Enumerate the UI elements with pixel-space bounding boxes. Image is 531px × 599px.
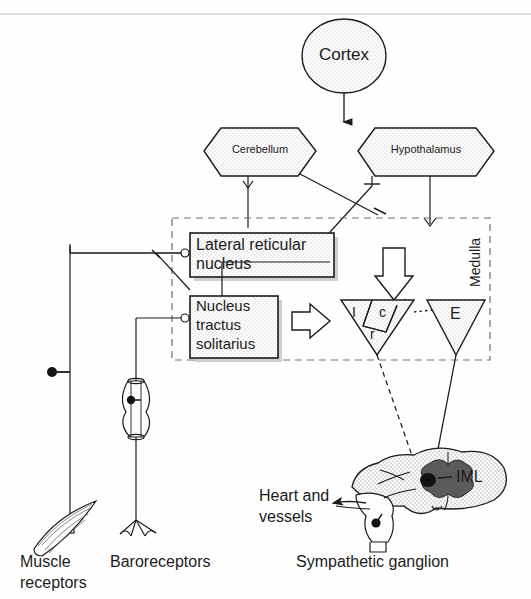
- nucleus-tractus-solitarius-label-line1: Nucleus: [196, 298, 250, 315]
- inspiratory-subregion-I-label: I: [352, 305, 356, 321]
- cerebellum-to-brainstem-line: [300, 174, 378, 215]
- heart-vessels-arrow: [334, 502, 366, 504]
- crossing-diagonal-terminal: [152, 250, 160, 258]
- heart-and-vessels-label-line2: vessels: [259, 508, 312, 526]
- inter-triangle-dotted-link: [414, 310, 432, 312]
- expiratory-triangle-label: E: [450, 305, 461, 323]
- sympathetic-ganglion-label: Sympathetic ganglion: [296, 553, 449, 571]
- nts-afferent-terminal-circle: [181, 314, 189, 322]
- muscle-receptors-label-line2: receptors: [20, 574, 87, 592]
- baroreceptor-vessel-icon: [122, 378, 149, 439]
- muscle-spindle-icon: [34, 501, 96, 556]
- inspiratory-subregion-r-label: r: [370, 327, 375, 343]
- lateral-reticular-nucleus-label-line1: Lateral reticular: [196, 236, 306, 254]
- cerebellum-label: Cerebellum: [210, 143, 310, 155]
- nts-to-respiratory-block-arrow: [292, 304, 330, 338]
- lrn-afferent-terminal-circle: [181, 249, 189, 257]
- inspiratory-to-iml-dashed-path: [377, 355, 417, 470]
- diagram-canvas: Cortex Cerebellum Hypothalamus Lateral r…: [0, 0, 531, 599]
- cortex-label: Cortex: [304, 45, 384, 64]
- inspiratory-subregion-c-label: c: [379, 305, 386, 321]
- lrn-afferent-left-run: [70, 244, 181, 253]
- iml-label: IML: [456, 468, 483, 486]
- heart-and-vessels-label-line1: Heart and: [259, 487, 329, 505]
- hypothalamus-label: Hypothalamus: [376, 143, 476, 155]
- baroreceptors-label: Baroreceptors: [110, 553, 211, 571]
- descending-block-arrow: [375, 248, 413, 300]
- nucleus-tractus-solitarius-label-line3: solitarius: [196, 336, 255, 353]
- cerebellum-terminal-bar: [374, 208, 386, 214]
- muscle-receptors-label-line1: Muscle: [20, 553, 71, 571]
- medulla-region-label: Medulla: [468, 238, 484, 287]
- nucleus-tractus-solitarius-label-line2: tractus: [196, 317, 241, 334]
- lateral-reticular-nucleus-label-line2: nucleus: [196, 255, 251, 273]
- crossing-diagonal-line: [156, 253, 190, 290]
- baroreceptor-nerve-endings: [120, 520, 156, 536]
